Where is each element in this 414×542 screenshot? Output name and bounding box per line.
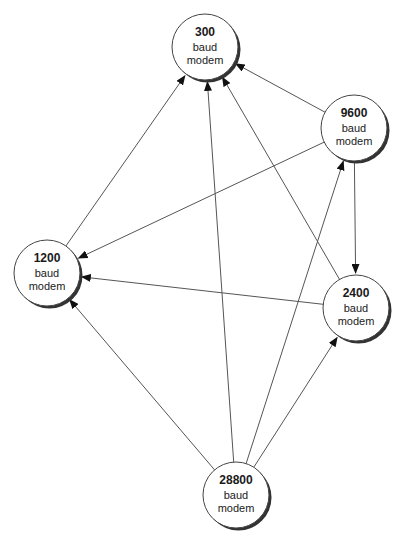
node-circle [323, 275, 389, 341]
edge-9600-to-1200 [79, 142, 325, 258]
node-circle [14, 240, 80, 306]
node-9600 [321, 95, 390, 164]
edge-9600-to-300 [236, 64, 325, 112]
node-28800 [203, 462, 272, 531]
edge-2400-to-300 [223, 77, 340, 279]
edge-28800-to-300 [207, 82, 233, 462]
modem-speed-graph [0, 0, 414, 542]
edge-9600-to-2400 [354, 161, 355, 273]
edge-2400-to-1200 [82, 277, 323, 304]
node-circle [172, 14, 238, 80]
edges [66, 64, 356, 470]
node-1200 [14, 240, 83, 309]
node-300 [172, 14, 241, 83]
edge-1200-to-300 [66, 76, 185, 246]
node-circle [321, 95, 387, 161]
node-2400 [323, 275, 392, 344]
edge-28800-to-1200 [70, 300, 215, 470]
node-circle [203, 462, 269, 528]
